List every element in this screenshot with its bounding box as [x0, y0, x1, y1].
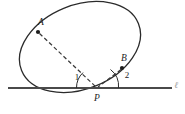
angle-2-label: 2	[125, 70, 130, 80]
point-b-label: B	[121, 53, 127, 63]
line-ell-label: ℓ	[174, 80, 178, 90]
point-a-label: A	[37, 17, 44, 27]
geometry-figure: A B P 1 2 ℓ	[0, 0, 185, 114]
figure-canvas: A B P 1 2 ℓ	[0, 0, 185, 114]
segment-a-to-p	[40, 34, 97, 88]
point-a-dot	[36, 30, 40, 34]
tilted-ellipse	[6, 0, 154, 110]
point-p-label: P	[93, 93, 100, 103]
point-b-dot	[120, 66, 124, 70]
angle-1-label: 1	[75, 72, 80, 82]
angle-arc-2	[111, 70, 119, 89]
